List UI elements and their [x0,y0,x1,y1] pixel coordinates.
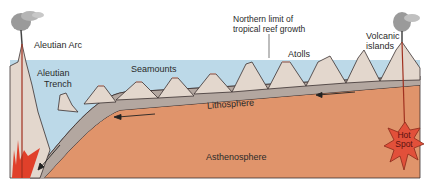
label-northern-limit-1: Northern limit of [233,14,293,24]
label-aleutian-arc: Aleutian Arc [34,40,82,50]
label-hot-spot-2: Spot [392,140,416,149]
label-asthenosphere: Asthenosphere [206,152,267,162]
label-atolls: Atolls [288,49,310,59]
label-volcanic-2: islands [366,41,394,51]
label-seamounts: Seamounts [131,64,177,74]
label-northern-limit-2: tropical reef growth [233,24,305,34]
label-volcanic-1: Volcanic [366,31,400,41]
label-aleutian-trench-1: Aleutian [37,68,70,78]
label-hot-spot: Hot Spot [392,131,416,149]
label-aleutian-trench-2: Trench [44,79,72,89]
